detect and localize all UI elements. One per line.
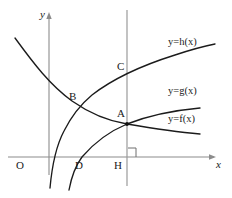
function-graph-figure: y x O D H A B C y=h(x) y=g(x) y=f(x) [0, 0, 232, 198]
right-angle-mark [128, 148, 136, 157]
point-label-H: H [114, 160, 122, 171]
curve-label-f: y=f(x) [168, 114, 195, 125]
curve-label-h: y=h(x) [168, 37, 197, 48]
point-label-D: D [75, 160, 83, 171]
x-axis [8, 154, 216, 160]
y-axis [46, 12, 51, 175]
point-label-C: C [117, 61, 124, 72]
point-label-B: B [69, 91, 76, 102]
point-label-A: A [117, 108, 125, 119]
x-axis-arrow [209, 154, 216, 160]
y-axis-label: y [40, 9, 45, 20]
x-axis-label: x [216, 159, 221, 170]
y-axis-arrow [46, 12, 51, 19]
curve-label-g: y=g(x) [168, 86, 197, 97]
point-marker-A [125, 122, 129, 126]
point-label-O: O [16, 160, 24, 171]
